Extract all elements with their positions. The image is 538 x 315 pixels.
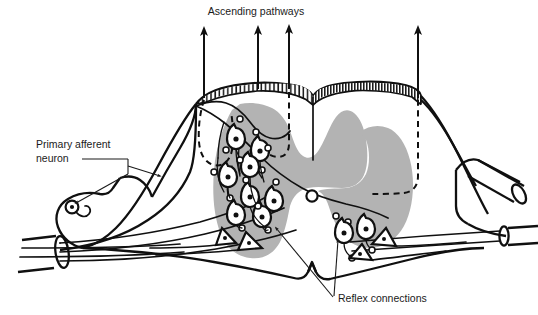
ascending-pathways-label: Ascending pathways	[208, 5, 304, 17]
neuron-soma-icon	[306, 190, 317, 201]
reflex-connections-label: Reflex connections	[338, 292, 427, 304]
ventral-median-fissure	[308, 262, 316, 272]
spinal-cord-diagram-svg: Ascending pathways Primary afferent neur…	[0, 0, 538, 315]
spinal-cord-figure: Ascending pathways Primary afferent neur…	[0, 0, 538, 315]
primary-afferent-neuron-label-line1: Primary afferent	[36, 138, 111, 150]
primary-afferent-neuron-label-line2: neuron	[36, 152, 69, 164]
dorsal-root-ganglion-neuron	[66, 201, 91, 217]
dorsal-root-right	[421, 100, 529, 224]
synaptic-bouton-icon	[369, 247, 375, 253]
